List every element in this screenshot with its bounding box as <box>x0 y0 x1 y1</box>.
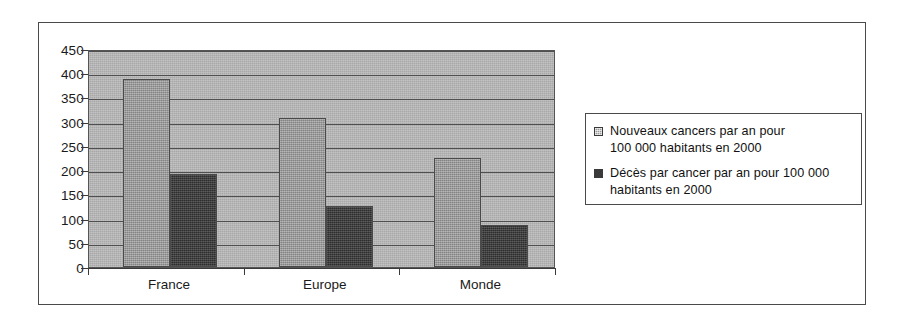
legend-line-1: Décès par cancer par an pour 100 000 <box>610 166 829 180</box>
x-axis-category-label-france: France <box>148 277 190 292</box>
y-axis-tick-mark <box>81 123 88 124</box>
y-axis-tick-label: 350 <box>38 91 84 106</box>
legend-label-nouveaux-cancers: Nouveaux cancers par an pour 100 000 hab… <box>610 123 785 156</box>
y-axis-tick-label: 150 <box>38 188 84 203</box>
legend-label-deces-cancer: Décès par cancer par an pour 100 000 hab… <box>610 165 829 198</box>
bar-europe-series-1 <box>279 118 326 267</box>
gridline <box>89 51 554 52</box>
bar-monde-series-1 <box>434 158 481 267</box>
legend-item-deces-cancer[interactable]: Décès par cancer par an pour 100 000 hab… <box>594 165 853 198</box>
bar-france-series-1 <box>123 79 170 267</box>
y-axis-tick-label: 50 <box>38 236 84 251</box>
bar-europe-series-2 <box>326 206 373 267</box>
y-axis-tick-mark <box>81 195 88 196</box>
x-axis-category-label-monde: Monde <box>460 277 501 292</box>
y-axis-tick-mark <box>81 220 88 221</box>
legend-line-2: habitants en 2000 <box>610 183 712 197</box>
y-axis-tick-label: 400 <box>38 67 84 82</box>
y-axis-tick-label: 200 <box>38 164 84 179</box>
x-axis-tick-mark <box>399 268 400 275</box>
legend-swatch-dark-icon <box>594 169 603 178</box>
y-axis-tick-mark <box>81 98 88 99</box>
y-axis-tick-mark <box>81 147 88 148</box>
x-axis-category-label-europe: Europe <box>303 277 347 292</box>
y-axis-tick-label: 450 <box>38 43 84 58</box>
y-axis-tick-label: 250 <box>38 139 84 154</box>
legend-item-nouveaux-cancers[interactable]: Nouveaux cancers par an pour 100 000 hab… <box>594 123 853 156</box>
y-axis-tick-mark <box>81 171 88 172</box>
gridline <box>89 75 554 76</box>
y-axis-tick-label: 100 <box>38 212 84 227</box>
x-axis-tick-mark <box>244 268 245 275</box>
x-axis-line <box>88 268 556 269</box>
y-axis-tick-mark <box>81 268 88 269</box>
chart-figure: 050100150200250300350400450 FranceEurope… <box>0 0 904 336</box>
legend-line-1: Nouveaux cancers par an pour <box>610 124 785 138</box>
legend-line-2: 100 000 habitants en 2000 <box>610 141 762 155</box>
plot-area <box>88 50 555 268</box>
y-axis-tick-label: 0 <box>38 261 84 276</box>
x-axis-tick-mark <box>88 268 89 275</box>
y-axis-tick-label: 300 <box>38 115 84 130</box>
bar-monde-series-2 <box>481 225 528 267</box>
y-axis-tick-mark <box>81 50 88 51</box>
y-axis-tick-mark <box>81 74 88 75</box>
bar-france-series-2 <box>170 174 217 267</box>
chart-legend: Nouveaux cancers par an pour 100 000 hab… <box>585 113 862 205</box>
legend-swatch-light-icon <box>594 127 603 136</box>
x-axis-tick-mark <box>555 268 556 275</box>
y-axis-tick-mark <box>81 244 88 245</box>
